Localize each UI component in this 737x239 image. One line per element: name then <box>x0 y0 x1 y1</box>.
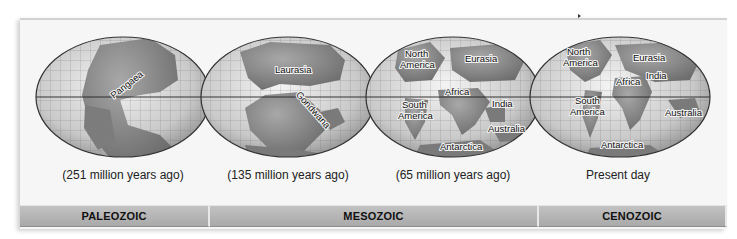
label-north: North <box>405 48 428 59</box>
label-america: America <box>400 59 436 70</box>
globe-mesozoic-65: North America Eurasia Africa South Ameri… <box>360 30 550 170</box>
label-africa: Africa <box>445 86 470 97</box>
label-australia: Australia <box>665 107 703 118</box>
globe-present: North America Eurasia India Africa South… <box>525 30 715 170</box>
label-india: India <box>492 98 513 109</box>
era-timeline: PALEOZOIC MESOZOIC CENOZOIC <box>20 205 727 227</box>
label-laurasia: Laurasia <box>275 64 312 75</box>
globe-paleozoic: Pangaea <box>30 30 220 170</box>
globes-diagram: Pangaea Laurasia Gondwana <box>0 0 737 239</box>
label-eurasia: Eurasia <box>633 52 666 63</box>
label-australia: Australia <box>488 123 526 134</box>
label-south: South <box>575 95 600 106</box>
era-cenozoic: CENOZOIC <box>539 205 727 227</box>
label-africa: Africa <box>616 76 641 87</box>
era-paleozoic: PALEOZOIC <box>20 205 210 227</box>
caption-251: (251 million years ago) <box>33 168 213 182</box>
globe-mesozoic-135: Laurasia Gondwana <box>195 30 385 170</box>
label-america: America <box>563 57 599 68</box>
caption-65: (65 million years ago) <box>363 168 543 182</box>
label-antarctica: Antarctica <box>440 141 483 152</box>
era-mesozoic: MESOZOIC <box>210 205 539 227</box>
label-antarctica: Antarctica <box>601 139 644 150</box>
label-america: America <box>398 110 434 121</box>
caption-present: Present day <box>528 168 708 182</box>
label-eurasia: Eurasia <box>465 53 498 64</box>
label-north: North <box>567 46 590 57</box>
label-america: America <box>570 106 606 117</box>
label-india: India <box>646 70 667 81</box>
caption-135: (135 million years ago) <box>198 168 378 182</box>
label-south: South <box>402 99 427 110</box>
